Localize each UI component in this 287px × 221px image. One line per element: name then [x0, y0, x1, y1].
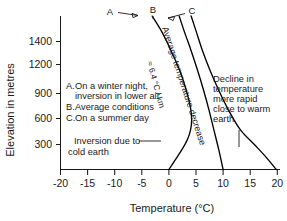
- curve-label-b-group: B: [150, 4, 156, 19]
- y-tick-label-600: 600: [34, 112, 52, 124]
- x-tick-label-10: 10: [217, 177, 229, 189]
- y-ticks-group: 1400 1200 900 600 300: [29, 35, 61, 150]
- legend: A. On a winter night, inversion in lower…: [66, 81, 160, 123]
- cold-earth-line-1: Inversion due to: [74, 136, 140, 146]
- y-tick-label-1400: 1400: [29, 35, 53, 47]
- x-tick-label--15: -15: [80, 177, 95, 189]
- legend-label-a-cont: inversion in lower air: [75, 91, 160, 101]
- x-ticks-group: -20 -15 -10 -5 0 5 10 15 20: [53, 170, 283, 189]
- temperature-elevation-chart: 1400 1200 900 600 300 -20 -15 -10 -5 0 5…: [0, 0, 287, 221]
- x-tick-label-20: 20: [271, 177, 283, 189]
- curve-label-b: B: [150, 4, 156, 15]
- y-tick-label-1200: 1200: [29, 58, 53, 70]
- x-tick-label-5: 5: [193, 177, 199, 189]
- legend-key-a: A.: [66, 81, 75, 91]
- curve-label-a-group: A: [107, 6, 138, 18]
- x-tick-label--10: -10: [107, 177, 122, 189]
- x-tick-label--20: -20: [53, 177, 68, 189]
- warm-earth-line-3: more rapid: [213, 94, 257, 104]
- annotation-warm-earth: Decline in temperature more rapid close …: [213, 74, 271, 147]
- x-axis-title: Temperature (°C): [130, 202, 214, 214]
- warm-earth-line-2: temperature: [213, 84, 263, 94]
- warm-earth-line-1: Decline in: [213, 74, 254, 84]
- legend-label-c: On a summer day: [75, 113, 149, 123]
- legend-key-b: B.: [66, 102, 75, 112]
- y-axis-title: Elevation in metres: [4, 63, 16, 157]
- y-tick-label-300: 300: [34, 138, 52, 150]
- legend-label-a: On a winter night,: [75, 81, 148, 91]
- legend-key-c: C.: [66, 113, 75, 123]
- warm-earth-line-5: earth: [213, 114, 234, 124]
- chart-canvas: 1400 1200 900 600 300 -20 -15 -10 -5 0 5…: [0, 0, 287, 221]
- curve-label-a: A: [107, 6, 114, 17]
- x-tick-label-0: 0: [166, 177, 172, 189]
- legend-label-b: Average conditions: [75, 102, 154, 112]
- x-tick-label-15: 15: [244, 177, 256, 189]
- warm-earth-line-4: close to warm: [213, 104, 271, 114]
- y-tick-label-900: 900: [34, 87, 52, 99]
- curve-c-arrow-head: [168, 17, 175, 21]
- annotation-cold-earth: Inversion due to cold earth: [68, 136, 161, 157]
- x-tick-label--5: -5: [137, 177, 146, 189]
- cold-earth-line-2: cold earth: [68, 147, 109, 157]
- curve-label-c: C: [189, 5, 196, 16]
